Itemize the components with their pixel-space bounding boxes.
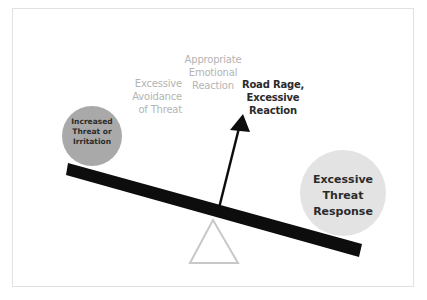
label-line: Excessive bbox=[238, 91, 308, 104]
label-line: Increased bbox=[62, 117, 122, 127]
label-line: Avoidance bbox=[121, 90, 182, 103]
indicator-arrow-shaft bbox=[219, 128, 239, 208]
label-line: Irritation bbox=[62, 137, 122, 147]
label-line: Reaction bbox=[183, 79, 243, 92]
label-line: Emotional bbox=[183, 66, 243, 79]
label-line: Road Rage, bbox=[238, 78, 308, 91]
fulcrum-triangle-icon bbox=[190, 220, 238, 263]
label-line: Excessive bbox=[121, 77, 182, 90]
label-appropriate-reaction: Appropriate Emotional Reaction bbox=[183, 53, 243, 92]
label-line: Response bbox=[300, 204, 386, 220]
right-weight-label: Excessive Threat Response bbox=[300, 172, 386, 220]
seesaw-diagram bbox=[0, 0, 427, 300]
label-road-rage: Road Rage, Excessive Reaction bbox=[238, 78, 308, 117]
label-excessive-avoidance: Excessive Avoidance of Threat bbox=[121, 77, 182, 116]
label-line: Threat or bbox=[62, 127, 122, 137]
label-line: Appropriate bbox=[183, 53, 243, 66]
label-line: of Threat bbox=[121, 103, 182, 116]
label-line: Threat bbox=[300, 188, 386, 204]
left-weight-label: Increased Threat or Irritation bbox=[62, 117, 122, 147]
label-line: Excessive bbox=[300, 172, 386, 188]
label-line: Reaction bbox=[238, 104, 308, 117]
